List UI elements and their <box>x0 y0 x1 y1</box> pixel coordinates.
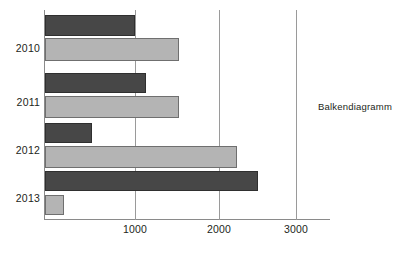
bar-2010-series-a <box>45 15 135 37</box>
x-axis-tick-1000: 1000 <box>123 223 147 235</box>
chart-annotation: Balkendiagramm <box>318 101 392 112</box>
bar-2011-series-b <box>45 96 179 118</box>
y-axis-label-2012: 2012 <box>0 144 40 156</box>
y-axis-label-2011: 2011 <box>0 96 40 108</box>
bar-2011-series-a <box>45 73 146 93</box>
bar-2010-series-b <box>45 38 179 61</box>
bar-2012-series-b <box>45 146 237 168</box>
x-axis-tick-3000: 3000 <box>284 223 308 235</box>
bar-2013-series-b <box>45 195 64 215</box>
bar-2012-series-a <box>45 123 92 143</box>
y-axis-label-2013: 2013 <box>0 192 40 204</box>
y-axis-labels: 2010 2011 2012 2013 <box>0 10 40 220</box>
gridline-3000 <box>296 10 297 220</box>
y-axis-label-2010: 2010 <box>0 42 40 54</box>
plot-area <box>45 10 330 220</box>
bar-2013-series-a <box>45 171 258 191</box>
bar-chart: 2010 2011 2012 2013 1000 2000 3000 Balke… <box>0 0 406 253</box>
x-axis-tick-2000: 2000 <box>207 223 231 235</box>
x-axis-line <box>44 219 330 220</box>
x-axis-tick-labels: 1000 2000 3000 <box>0 223 406 243</box>
